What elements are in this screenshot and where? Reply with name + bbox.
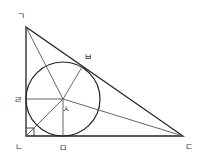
label-tangent-d: ㄹ [14,95,22,105]
geometry-diagram: ㄱ ㄴ ㄷ ㄹ ㅁ ㅂ ㅅ [0,0,207,155]
label-vertex-c: ㄷ [185,142,193,152]
radius-to-f [63,67,82,99]
label-tangent-e: ㅁ [59,143,67,153]
label-vertex-a: ㄱ [17,11,25,21]
triangle [26,27,183,136]
label-tangent-f: ㅂ [84,52,92,62]
label-incenter: ㅅ [62,104,70,114]
bisector-from-c [63,99,183,136]
label-vertex-b: ㄴ [15,142,23,152]
